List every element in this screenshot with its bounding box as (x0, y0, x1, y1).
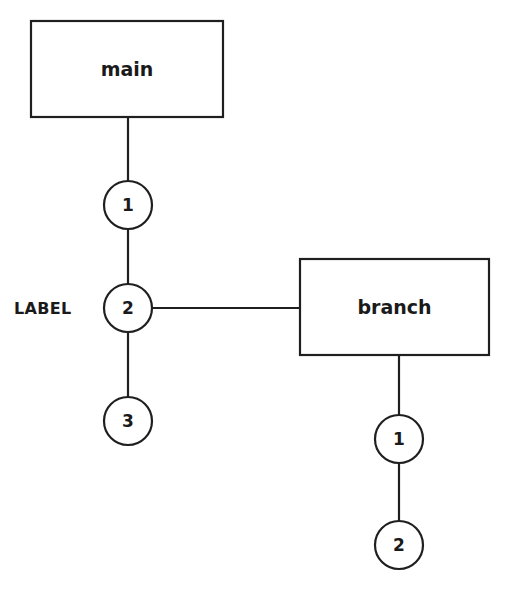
branch-commit-2[interactable]: 2 (375, 521, 423, 569)
diagram-canvas: main 1 2 3 branch 1 2 LABEL (0, 0, 512, 596)
branch-commit-1[interactable]: 1 (375, 415, 423, 463)
main-commit-1[interactable]: 1 (104, 181, 152, 229)
branch-commit-1-label: 1 (393, 429, 405, 449)
main-commit-3-label: 3 (122, 411, 134, 431)
diagram-root: main 1 2 3 branch 1 2 LABEL (0, 0, 512, 596)
main-commit-1-label: 1 (122, 195, 134, 215)
main-commit-3[interactable]: 3 (104, 397, 152, 445)
branch-node-branch[interactable]: branch (300, 259, 489, 355)
branch-branch-label: branch (357, 296, 431, 318)
main-commit-2[interactable]: 2 (104, 284, 152, 332)
main-commit-2-label: 2 (122, 298, 134, 318)
branch-commit-2-label: 2 (393, 535, 405, 555)
branch-node-main[interactable]: main (31, 21, 223, 117)
main-branch-label: main (101, 58, 154, 80)
label-annotation: LABEL (14, 299, 71, 318)
